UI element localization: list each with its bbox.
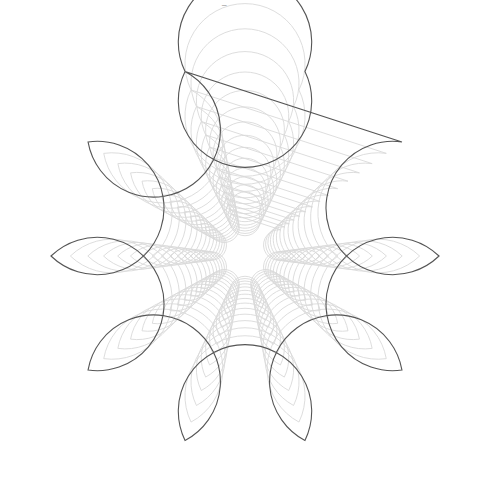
scallop-diagram — [0, 0, 488, 497]
inner-scallop-outline-3 — [104, 52, 387, 391]
inner-scallop-outline-2 — [88, 29, 402, 406]
inner-scallop-outline-1 — [70, 4, 419, 422]
inner-scallop-outline-9 — [170, 147, 320, 327]
inner-scallop-outline-4 — [118, 72, 373, 377]
inner-scallop-outline-6 — [142, 107, 348, 354]
outer-scallop-outline — [51, 0, 439, 441]
inner-scallop-outline-5 — [130, 90, 359, 365]
inner-scallop-outline-10 — [177, 158, 312, 320]
